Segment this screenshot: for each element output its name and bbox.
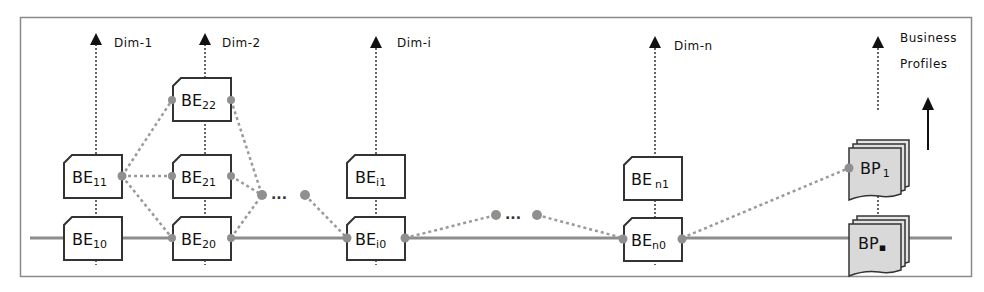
arrow-up-icon — [370, 36, 382, 48]
node-dot-icon — [491, 210, 501, 220]
entity-be22[interactable]: BE22 — [173, 78, 231, 121]
dim-2-label: Dim-2 — [222, 36, 261, 50]
node-dot-icon — [678, 235, 687, 244]
node-dot-icon — [168, 96, 176, 104]
entity-bei0[interactable]: BEi0 — [347, 217, 405, 260]
dim-i-label: Dim-i — [397, 36, 431, 50]
business-profiles-label-line2: Profiles — [900, 57, 948, 71]
entity-ben0[interactable]: BEn0 — [624, 218, 682, 261]
node-dot-icon — [401, 234, 410, 243]
arrow-up-icon — [199, 33, 211, 45]
node-dot-icon — [168, 234, 176, 242]
profile-bpn[interactable]: BP▪ — [849, 216, 909, 276]
node-dot-icon — [227, 234, 235, 242]
node-dot-icon — [227, 96, 235, 104]
node-dot-icon — [257, 190, 267, 200]
node-dot-icon — [343, 234, 352, 243]
entity-ben1[interactable]: BEn1 — [624, 157, 682, 200]
dim-1-label: Dim-1 — [114, 36, 153, 50]
diagram-canvas: Dim-1 Dim-2 Dim-i Dim-n Business Profile… — [0, 0, 984, 292]
node-dot-icon — [619, 235, 628, 244]
entity-be11[interactable]: BE11 — [64, 155, 122, 198]
entity-be20[interactable]: BE20 — [173, 217, 231, 260]
dimension-arrows — [90, 33, 884, 48]
node-dot-icon — [845, 164, 854, 173]
arrow-up-icon — [649, 36, 661, 48]
dim-n-label: Dim-n — [674, 39, 713, 53]
ellipsis-1: ... — [271, 186, 287, 202]
node-dot-icon — [168, 172, 176, 180]
entity-be10[interactable]: BE10 — [64, 217, 122, 260]
profile-bp1[interactable]: BP1 — [849, 140, 909, 200]
entity-be21[interactable]: BE21 — [173, 155, 231, 198]
ellipsis-2: ... — [505, 206, 521, 222]
arrow-up-icon — [90, 33, 102, 45]
node-dot-icon — [300, 190, 310, 200]
business-profiles-label-line1: Business — [900, 31, 957, 45]
arrow-up-icon — [922, 97, 934, 110]
arrow-up-icon — [872, 36, 884, 48]
node-dot-icon — [118, 172, 127, 181]
business-profiles-arrow — [922, 97, 934, 150]
node-dot-icon — [532, 210, 542, 220]
entity-bei1[interactable]: BEi1 — [347, 155, 405, 198]
node-dot-icon — [227, 172, 235, 180]
